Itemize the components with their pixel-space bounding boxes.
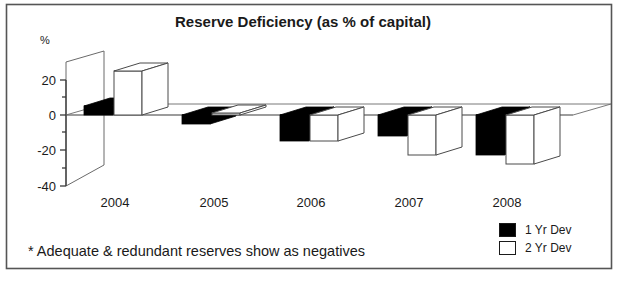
x-axis-label-2005: 2005	[200, 195, 229, 210]
x-axis-label-2004: 2004	[101, 195, 130, 210]
y-tick-label-neg40: -40	[37, 179, 56, 194]
x-axis-label-2007: 2007	[395, 195, 424, 210]
bar-2008-2yr-dev	[506, 107, 560, 164]
y-axis	[60, 80, 66, 186]
x-axis-label-2006: 2006	[297, 195, 326, 210]
reserve-deficiency-3d-bar-chart: Reserve Deficiency (as % of capital) % 2…	[0, 0, 619, 284]
legend-swatch-2yr-dev	[500, 242, 516, 255]
y-axis-unit-label: %	[40, 34, 50, 46]
bar-2004-2yr-dev	[114, 63, 168, 115]
bar-2005-2yr-dev	[212, 105, 266, 115]
chart-legend: 1 Yr Dev 2 Yr Dev	[500, 223, 572, 255]
chart-title: Reserve Deficiency (as % of capital)	[175, 13, 431, 30]
bar-2006-2yr-dev	[310, 107, 364, 141]
y-tick-label-20: 20	[42, 73, 56, 88]
legend-label-2yr-dev: 2 Yr Dev	[525, 241, 571, 255]
legend-label-1yr-dev: 1 Yr Dev	[525, 223, 571, 237]
x-axis-label-2008: 2008	[493, 195, 522, 210]
y-tick-label-0: 0	[49, 108, 56, 123]
back-wall-outline	[66, 51, 104, 186]
chart-footnote: * Adequate & redundant reserves show as …	[28, 243, 365, 259]
legend-swatch-1yr-dev	[500, 224, 516, 237]
chart-container: Reserve Deficiency (as % of capital) % 2…	[0, 0, 619, 284]
y-tick-label-neg20: -20	[37, 143, 56, 158]
zero-plane-right-edge	[573, 104, 611, 115]
chart-3d-back-wall	[66, 51, 104, 186]
bar-2007-2yr-dev	[408, 107, 462, 155]
